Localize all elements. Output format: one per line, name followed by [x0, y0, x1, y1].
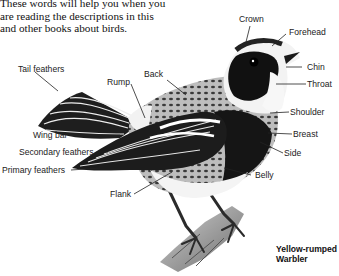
label-secondary-feathers: Secondary feathers [19, 147, 94, 157]
bird-head [224, 38, 301, 113]
label-crown: Crown [239, 14, 264, 24]
species-name-line-1: Yellow-rumped [276, 244, 337, 254]
label-tail-feathers: Tail feathers [18, 64, 64, 74]
label-belly: Belly [255, 170, 274, 180]
label-chin: Chin [307, 62, 325, 72]
label-rump: Rump [107, 77, 130, 87]
label-flank: Flank [110, 189, 131, 199]
label-wing-bar: Wing bar [33, 130, 67, 140]
species-name-line-2: Warbler [276, 254, 337, 264]
branch [160, 206, 244, 272]
label-shoulder: Shoulder [290, 107, 324, 117]
species-name: Yellow-rumped Warbler [276, 244, 337, 264]
label-side: Side [284, 148, 301, 158]
label-back: Back [144, 69, 163, 79]
label-breast: Breast [293, 129, 318, 139]
label-primary-feathers: Primary feathers [2, 165, 65, 175]
label-throat: Throat [307, 79, 332, 89]
label-forehead: Forehead [289, 27, 326, 37]
